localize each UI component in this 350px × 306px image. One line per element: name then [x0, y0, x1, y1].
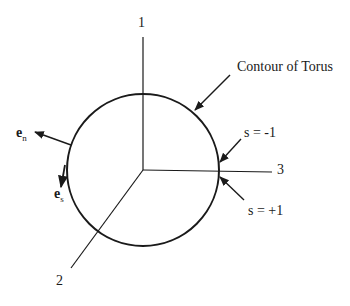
axis-1-label: 1: [138, 16, 145, 30]
axis-3: [143, 170, 272, 172]
contour-arrow: [195, 75, 230, 110]
s-minus-arrow: [220, 139, 241, 162]
es-label: es: [54, 187, 64, 204]
axis-2-label: 2: [56, 274, 63, 288]
en-arrow: [35, 132, 71, 145]
torus-diagram: [0, 0, 350, 306]
en-label: en: [16, 126, 27, 143]
en-sub: n: [22, 133, 27, 143]
s-minus-label: s = -1: [244, 126, 276, 140]
es-arrow: [61, 165, 65, 187]
s-plus-label: s = +1: [248, 204, 283, 218]
es-sub: s: [60, 194, 64, 204]
s-plus-arrow: [220, 177, 244, 200]
axis-2: [71, 170, 143, 268]
axis-3-label: 3: [277, 163, 284, 177]
contour-label: Contour of Torus: [237, 60, 333, 74]
